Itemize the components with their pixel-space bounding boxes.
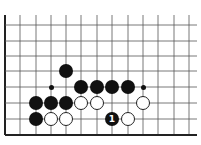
go-board: 1 <box>0 0 201 145</box>
point-marker-dot <box>49 85 54 90</box>
point-marker-dot <box>141 85 146 90</box>
black-stone <box>44 96 58 110</box>
black-stone <box>105 80 119 94</box>
white-stone <box>74 96 88 110</box>
white-stone <box>121 112 135 126</box>
black-stone: 1 <box>105 112 119 126</box>
black-stone <box>59 64 73 78</box>
white-stone <box>136 96 150 110</box>
move-number-label: 1 <box>109 115 115 124</box>
white-stone <box>44 112 58 126</box>
white-stone <box>90 96 104 110</box>
white-stone <box>59 112 73 126</box>
black-stone <box>90 80 104 94</box>
black-stone <box>29 112 43 126</box>
black-stone <box>121 80 135 94</box>
black-stone <box>59 96 73 110</box>
black-stone <box>29 96 43 110</box>
black-stone <box>74 80 88 94</box>
